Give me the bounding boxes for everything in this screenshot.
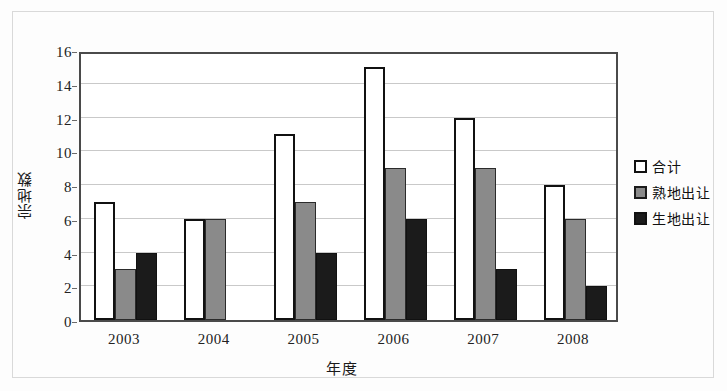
y-axis-tick-label: 12 — [56, 111, 72, 128]
gray-square-icon — [634, 186, 647, 199]
x-axis-tick-label: 2003 — [108, 331, 140, 348]
bar — [316, 253, 337, 321]
black-square-icon — [634, 212, 647, 225]
legend-item[interactable]: 熟地出让 — [634, 179, 722, 205]
y-axis-tick-mark — [72, 288, 77, 289]
y-axis-tick-mark — [72, 52, 77, 53]
x-axis-tick-label: 2004 — [198, 331, 230, 348]
gridline — [81, 184, 616, 185]
gridline — [81, 83, 616, 84]
bar — [184, 219, 205, 320]
bar — [385, 168, 406, 320]
plot-area — [79, 52, 618, 322]
y-axis-tick-label: 10 — [56, 145, 72, 162]
legend-item[interactable]: 合计 — [634, 153, 722, 179]
y-axis-tick-mark — [72, 322, 77, 323]
legend-item-label: 熟地出让 — [652, 182, 710, 202]
bar — [94, 202, 115, 320]
bar — [295, 202, 316, 320]
y-axis-title: 宗地数 — [14, 155, 36, 235]
x-axis-title: 年度 — [0, 357, 684, 378]
bar — [274, 134, 295, 320]
bar — [565, 219, 586, 320]
gridline — [81, 218, 616, 219]
y-axis-tick-mark — [72, 221, 77, 222]
legend-item-label: 生地出让 — [652, 208, 710, 228]
gridline — [81, 285, 616, 286]
bar — [205, 219, 226, 320]
chart-legend: 合计熟地出让生地出让 — [634, 153, 722, 231]
y-axis-tick-label: 4 — [64, 246, 72, 263]
legend-item-label: 合计 — [652, 156, 681, 176]
bar — [136, 253, 157, 321]
y-axis-tick-mark — [72, 255, 77, 256]
bar — [454, 118, 475, 321]
bar — [496, 269, 517, 320]
y-axis-tick-mark — [72, 187, 77, 188]
x-axis-ticklabels: 200320042005200620072008 — [79, 331, 618, 353]
gridline — [81, 252, 616, 253]
y-axis-tick-label: 2 — [64, 280, 72, 297]
y-axis-tick-label: 16 — [56, 44, 72, 61]
bar — [115, 269, 136, 320]
x-axis-tick-label: 2006 — [377, 331, 409, 348]
bar — [406, 219, 427, 320]
y-axis-ticklabels: 0246810121416 — [38, 52, 72, 322]
x-axis-tick-label: 2005 — [288, 331, 320, 348]
y-axis-tick-label: 0 — [64, 314, 72, 331]
x-axis-tick-label: 2007 — [467, 331, 499, 348]
y-axis-tick-label: 14 — [56, 77, 72, 94]
y-axis-tick-label: 6 — [64, 212, 72, 229]
legend-item[interactable]: 生地出让 — [634, 205, 722, 231]
bar-chart-figure: 宗地数 0246810121416 2003200420052006200720… — [0, 0, 727, 391]
gridline — [81, 117, 616, 118]
y-axis-tick-label: 8 — [64, 179, 72, 196]
bar — [586, 286, 607, 320]
bar — [475, 168, 496, 320]
y-axis-tick-mark — [72, 120, 77, 121]
bar — [544, 185, 565, 320]
y-axis-tick-mark — [72, 153, 77, 154]
x-axis-tick-label: 2008 — [557, 331, 589, 348]
bar — [364, 67, 385, 320]
y-axis-tick-mark — [72, 86, 77, 87]
white-square-outline-icon — [634, 160, 647, 173]
gridline — [81, 150, 616, 151]
